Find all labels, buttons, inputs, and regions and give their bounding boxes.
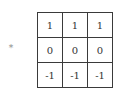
kernel-cell: 1 [38, 13, 63, 38]
kernel-cell: 0 [38, 38, 63, 63]
kernel-cell: 1 [88, 13, 113, 38]
kernel-cell: -1 [88, 63, 113, 88]
kernel-cell: 0 [63, 38, 88, 63]
kernel-cell: -1 [38, 63, 63, 88]
kernel-matrix: 1 1 1 0 0 0 -1 -1 -1 [37, 12, 113, 88]
kernel-cell: -1 [63, 63, 88, 88]
kernel-row: 1 1 1 [38, 13, 113, 38]
convolution-operator: * [7, 43, 15, 53]
kernel-row: -1 -1 -1 [38, 63, 113, 88]
kernel-row: 0 0 0 [38, 38, 113, 63]
kernel-cell: 1 [63, 13, 88, 38]
kernel-cell: 0 [88, 38, 113, 63]
